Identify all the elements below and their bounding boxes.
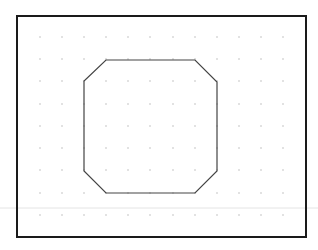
grid-dot — [282, 214, 283, 215]
grid-dot — [127, 169, 128, 170]
grid-dot — [282, 192, 283, 193]
grid-dot — [194, 125, 195, 126]
grid-dot — [282, 80, 283, 81]
grid-dot — [61, 169, 62, 170]
grid-dot — [149, 36, 150, 37]
grid-dot — [39, 80, 40, 81]
grid-dot — [105, 80, 106, 81]
grid-dot — [105, 36, 106, 37]
grid-dot — [260, 147, 261, 148]
grid-dot — [238, 80, 239, 81]
grid-dot — [216, 214, 217, 215]
grid-dot — [83, 214, 84, 215]
grid-dot — [172, 36, 173, 37]
grid-dot — [282, 58, 283, 59]
grid-dot — [149, 214, 150, 215]
grid-dot — [61, 103, 62, 104]
grid-dot — [61, 192, 62, 193]
grid-dot — [149, 147, 150, 148]
grid-dot — [39, 58, 40, 59]
grid-dot — [260, 80, 261, 81]
dot-grid — [39, 36, 283, 215]
grid-dot — [61, 58, 62, 59]
grid-dot — [172, 125, 173, 126]
octagon-shape[interactable] — [84, 60, 217, 193]
grid-dot — [172, 214, 173, 215]
grid-dot — [282, 169, 283, 170]
grid-dot — [127, 147, 128, 148]
grid-dot — [83, 192, 84, 193]
grid-dot — [127, 36, 128, 37]
grid-dot — [61, 214, 62, 215]
grid-dot — [105, 214, 106, 215]
grid-dot — [127, 80, 128, 81]
grid-dot — [238, 169, 239, 170]
grid-dot — [83, 58, 84, 59]
grid-dot — [260, 125, 261, 126]
grid-dot — [39, 192, 40, 193]
grid-dot — [61, 125, 62, 126]
grid-dot — [238, 192, 239, 193]
grid-dot — [39, 103, 40, 104]
grid-dot — [83, 36, 84, 37]
grid-dot — [105, 169, 106, 170]
grid-dot — [216, 58, 217, 59]
grid-dot — [194, 169, 195, 170]
grid-dot — [238, 58, 239, 59]
grid-dot — [39, 125, 40, 126]
grid-dot — [194, 214, 195, 215]
grid-dot — [61, 36, 62, 37]
grid-dot — [172, 103, 173, 104]
grid-dot — [260, 169, 261, 170]
grid-dot — [238, 147, 239, 148]
grid-dot — [39, 36, 40, 37]
grid-dot — [238, 36, 239, 37]
grid-dot — [194, 80, 195, 81]
grid-dot — [127, 125, 128, 126]
grid-dot — [194, 147, 195, 148]
grid-dot — [172, 147, 173, 148]
grid-dot — [39, 169, 40, 170]
grid-dot — [61, 80, 62, 81]
grid-dot — [260, 103, 261, 104]
grid-dot — [260, 36, 261, 37]
grid-dot — [149, 103, 150, 104]
grid-dot — [216, 36, 217, 37]
grid-dot — [39, 147, 40, 148]
grid-dot — [260, 192, 261, 193]
grid-dot — [61, 147, 62, 148]
grid-dot — [282, 36, 283, 37]
grid-dot — [238, 214, 239, 215]
grid-dot — [194, 36, 195, 37]
grid-dot — [282, 147, 283, 148]
grid-dot — [149, 125, 150, 126]
grid-dot — [194, 103, 195, 104]
grid-dot — [127, 214, 128, 215]
grid-dot — [238, 103, 239, 104]
grid-dot — [105, 125, 106, 126]
grid-dot — [260, 58, 261, 59]
grid-dot — [105, 103, 106, 104]
grid-dot — [238, 125, 239, 126]
grid-dot — [282, 103, 283, 104]
drawing-canvas[interactable] — [0, 0, 318, 250]
grid-dot — [105, 147, 106, 148]
grid-dot — [216, 192, 217, 193]
grid-dot — [149, 80, 150, 81]
grid-dot — [149, 169, 150, 170]
grid-dot — [260, 214, 261, 215]
canvas-frame — [17, 16, 306, 237]
grid-dot — [172, 169, 173, 170]
grid-dot — [282, 125, 283, 126]
grid-dot — [172, 80, 173, 81]
grid-dot — [39, 214, 40, 215]
grid-dot — [127, 103, 128, 104]
